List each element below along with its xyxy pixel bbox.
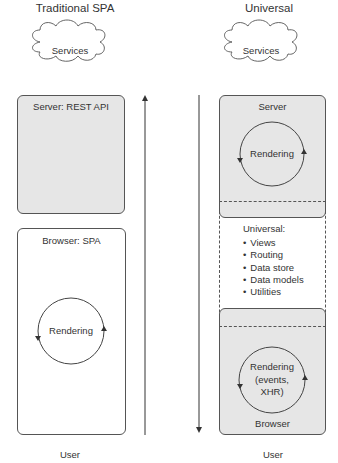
right-user-label: User	[243, 449, 303, 460]
left-user-label: User	[40, 449, 100, 460]
right-browser-label: Browser	[219, 418, 326, 429]
right-browser-rendering-label: Rendering (events, XHR)	[242, 361, 302, 399]
